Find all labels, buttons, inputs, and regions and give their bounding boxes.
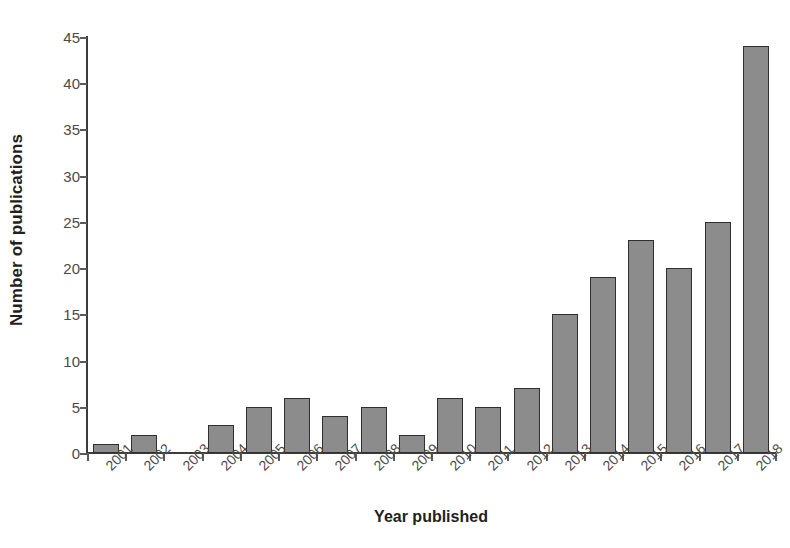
bar (705, 222, 731, 453)
y-axis-tick-label: 35 (63, 122, 80, 137)
y-axis-tick-mark (80, 407, 87, 409)
y-axis-tick-mark (80, 37, 87, 39)
y-axis-tick-label: 10 (63, 353, 80, 368)
bar (437, 398, 463, 453)
bar (361, 407, 387, 453)
y-axis-tick-label: 25 (63, 214, 80, 229)
y-axis-tick-label: 30 (63, 168, 80, 183)
bar (590, 277, 616, 453)
y-axis-tick-label: 45 (63, 30, 80, 45)
bar (475, 407, 501, 453)
y-axis-tick-mark (80, 361, 87, 363)
y-axis-tick-mark (80, 222, 87, 224)
bar (666, 268, 692, 453)
bar (284, 398, 310, 453)
y-axis-tick-mark (80, 314, 87, 316)
y-axis-tick-mark (80, 268, 87, 270)
bar (628, 240, 654, 453)
y-axis-title: Number of publications (2, 0, 32, 460)
bar (743, 46, 769, 453)
y-axis-tick-label: 5 (72, 399, 80, 414)
y-axis-tick-label: 0 (72, 446, 80, 461)
y-axis-tick-label: 15 (63, 307, 80, 322)
bar (246, 407, 272, 453)
y-axis-tick-label: 20 (63, 261, 80, 276)
x-axis-tick-mark (87, 453, 89, 461)
y-axis-tick-mark (80, 176, 87, 178)
y-axis-tick-mark (80, 129, 87, 131)
bar-chart-figure: Number of publications 05101520253035404… (0, 0, 790, 548)
y-axis-tick-mark (80, 453, 87, 455)
bar (552, 314, 578, 453)
x-axis-title: Year published (87, 508, 775, 526)
bar (514, 388, 540, 453)
y-axis-tick-mark (80, 83, 87, 85)
plot-area: 051015202530354045 (87, 37, 775, 453)
y-axis-tick-label: 40 (63, 76, 80, 91)
y-axis-title-text: Number of publications (7, 134, 27, 326)
